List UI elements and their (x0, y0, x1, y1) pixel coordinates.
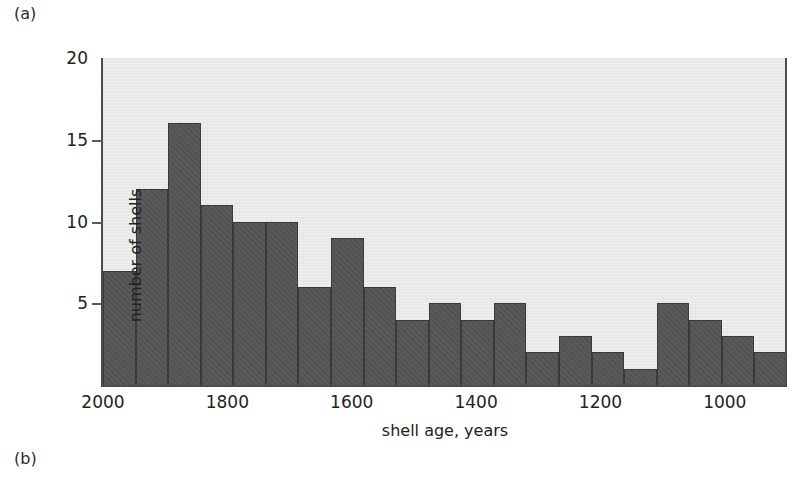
plot-area (103, 58, 787, 385)
x-tick-label: 1200 (555, 392, 645, 412)
histogram-bar (266, 222, 299, 386)
plot-region: number of shells (103, 58, 787, 385)
histogram-bar (233, 222, 266, 386)
y-tick-mark (92, 140, 102, 142)
y-tick-label: 10 (28, 212, 88, 232)
panel-b-label: (b) (14, 449, 37, 468)
histogram-bar (624, 369, 657, 385)
y-tick-label: 15 (28, 130, 88, 150)
y-tick-label: 20 (28, 48, 88, 68)
histogram-bar (754, 352, 787, 385)
histogram-bar (494, 303, 527, 385)
figure-container: (a) number of shells 2015105 20001800160… (0, 0, 812, 480)
histogram-bar (331, 238, 364, 385)
y-axis-title: number of shells (126, 126, 145, 386)
y-tick-mark (92, 222, 102, 224)
histogram-bar (689, 320, 722, 385)
x-tick-label: 1400 (431, 392, 521, 412)
histogram-bar (201, 205, 234, 385)
x-tick-label: 1800 (182, 392, 272, 412)
x-tick-label: 1600 (307, 392, 397, 412)
x-tick-label: 2000 (58, 392, 148, 412)
histogram-bar (168, 123, 201, 385)
x-tick-label: 1000 (680, 392, 770, 412)
histogram-bar (461, 320, 494, 385)
y-tick-label: 5 (28, 293, 88, 313)
panel-a-label: (a) (14, 4, 36, 23)
histogram-bar (657, 303, 690, 385)
x-axis-title: shell age, years (103, 421, 787, 440)
y-tick-mark (92, 303, 102, 305)
histogram-bar (559, 336, 592, 385)
histogram-bar (364, 287, 397, 385)
histogram-bar (526, 352, 559, 385)
histogram-bar (722, 336, 755, 385)
histogram-bar (592, 352, 625, 385)
bar-series (103, 58, 787, 385)
histogram-bar (429, 303, 462, 385)
x-axis-line (101, 385, 787, 387)
histogram-bar (298, 287, 331, 385)
histogram-bar (396, 320, 429, 385)
